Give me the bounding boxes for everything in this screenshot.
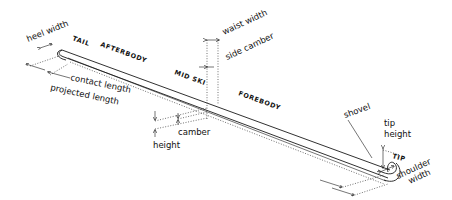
label-height: height: [153, 140, 181, 150]
label-tail: TAIL: [71, 34, 91, 48]
label-shovel: shovel: [342, 101, 371, 120]
label-mid-ski: MID SKI: [173, 68, 207, 87]
label-tip-height-1: tip: [384, 118, 395, 128]
label-waist-width: waist width: [221, 7, 269, 37]
ski-diagram: heel width TAIL AFTERBODY contact length…: [0, 0, 452, 200]
label-tip: TIP: [391, 152, 406, 163]
label-side-camber: side camber: [224, 30, 276, 61]
label-camber: camber: [178, 127, 211, 137]
shovel-pointer: [348, 120, 372, 158]
label-afterbody: AFTERBODY: [99, 40, 148, 64]
label-heel-width: heel width: [25, 18, 70, 44]
heel-width-arrow: [40, 44, 52, 48]
label-tip-height-2: height: [384, 129, 412, 139]
label-forebody: FOREBODY: [237, 89, 281, 112]
